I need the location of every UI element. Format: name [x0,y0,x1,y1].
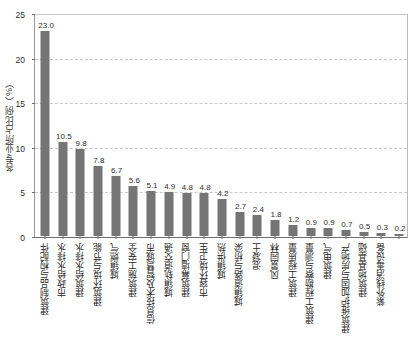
bar[interactable] [129,186,138,236]
bar-slot[interactable]: 0.7 [337,14,355,236]
bar[interactable] [147,191,156,236]
bar-value-label: 0.3 [377,224,388,232]
bar-slot[interactable]: 0.5 [355,14,373,236]
x-tick-mark [328,236,329,239]
x-tick-mark [363,236,364,239]
bar[interactable] [253,215,262,236]
x-axis-label-text: 建筑施工安全 [127,243,138,297]
x-tick-mark [168,236,169,239]
bar-value-label: 5.1 [146,182,157,190]
bar-slot[interactable]: 5.6 [125,14,143,236]
bar-value-label: 0.7 [341,221,352,229]
y-tick-label: 5 [5,189,25,198]
bar-value-label: 0.2 [394,225,405,233]
x-axis-label-text: 紫外线消毒设备 [375,243,386,306]
bar-slot[interactable]: 2.7 [231,14,249,236]
bar-slot[interactable]: 1.2 [284,14,302,236]
bar-value-label: 0.9 [324,219,335,227]
bar[interactable] [217,199,226,236]
bar[interactable] [40,31,49,236]
bar-slot[interactable]: 1.8 [266,14,284,236]
bar-value-label: 2.7 [235,203,246,211]
y-tick-label: 15 [5,100,25,109]
x-axis-label: 信息技术及智慧城市 [144,243,156,328]
y-tick-label: 25 [5,11,25,20]
bar-value-label: 5.6 [129,177,140,185]
x-tick-mark [115,236,116,239]
bar-value-label: 9.8 [76,140,87,148]
bar[interactable] [306,228,315,236]
x-axis-label: 建筑工程质量 [286,243,298,301]
bar-value-label: 6.7 [111,167,122,175]
x-axis-label: 城镇燃气 [109,243,121,283]
bar-slot[interactable]: 4.8 [178,14,196,236]
bar[interactable] [93,166,102,236]
bar-slot[interactable]: 4.9 [160,14,178,236]
bar-series: 23.010.59.87.86.75.65.14.94.84.84.22.72.… [36,14,406,236]
x-axis-label-text: 市容环境卫生 [198,243,209,297]
bar[interactable] [111,176,120,236]
x-axis-label: 城镇轨道交通 [162,243,174,301]
y-axis-title-text: 各专业所占比例（%） [4,78,15,172]
x-tick-mark [221,236,222,239]
bar-slot[interactable]: 0.9 [319,14,337,236]
bar-slot[interactable]: 0.2 [390,14,408,236]
bar-slot[interactable]: 7.8 [89,14,107,236]
bar-slot[interactable]: 23.0 [36,14,54,236]
bar-value-label: 10.5 [56,133,72,141]
bar-slot[interactable]: 9.8 [71,14,89,236]
x-axis-label-text: 混凝土 [251,243,262,270]
bar-slot[interactable]: 2.4 [249,14,267,236]
bar-slot[interactable]: 4.2 [213,14,231,236]
bar-slot[interactable]: 0.9 [302,14,320,236]
x-tick-mark [151,236,152,239]
x-axis-label: 建筑施工安全 [126,243,138,301]
bar-value-label: 0.5 [359,223,370,231]
bar-slot[interactable]: 6.7 [107,14,125,236]
x-axis-label-text: 建筑给水排水 [74,243,85,297]
x-tick-mark [345,236,346,239]
y-axis-title: 各专业所占比例（%） [2,0,16,250]
bar[interactable] [76,149,85,236]
bar[interactable] [58,142,67,236]
x-tick-mark [44,236,45,239]
x-axis-label-text: 信息技术及智慧城市 [145,243,156,324]
bar-slot[interactable]: 0.3 [373,14,391,236]
x-tick-mark [204,236,205,239]
bar[interactable] [182,193,191,236]
bar-slot[interactable]: 10.5 [54,14,72,236]
bar[interactable] [164,192,173,236]
x-axis-label-text: 市政给水排水 [56,243,67,297]
y-tick-label: 20 [5,55,25,64]
bar[interactable] [271,220,280,236]
bar[interactable] [288,225,297,236]
y-tick-mark [32,192,35,193]
bar[interactable] [324,228,333,236]
x-tick-mark [239,236,240,239]
bar-value-label: 4.9 [164,183,175,191]
x-axis-labels: 建筑制品与构配件市政给水排水建筑给水排水建筑环境与节能城镇燃气建筑施工安全信息技… [35,243,407,362]
x-axis-label-text: 建筑工程质量 [287,243,298,297]
x-axis-label-text: 城镇道路与桥梁 [233,243,244,306]
x-axis-label: 建筑环境与节能 [91,243,103,310]
x-tick-mark [97,236,98,239]
x-axis-label-text: 风景园林 [269,243,280,279]
x-tick-mark [80,236,81,239]
bar[interactable] [200,193,209,236]
bar[interactable] [235,212,244,236]
x-axis-label: 建筑电气 [321,243,333,283]
x-axis-label-text: 城镇燃气 [109,243,120,279]
bar-slot[interactable]: 5.1 [142,14,160,236]
x-axis-label: 建筑工程勘察与测量 [304,243,316,328]
x-tick-mark [62,236,63,239]
bar-value-label: 2.4 [253,206,264,214]
x-axis-label: 建筑维护加固与房地产 [339,243,351,337]
x-tick-mark [310,236,311,239]
plot-area: 0510152025 23.010.59.87.86.75.65.14.94.8… [34,14,408,238]
x-tick-mark [257,236,258,239]
bar-value-label: 4.8 [182,184,193,192]
bar-slot[interactable]: 4.8 [195,14,213,236]
x-axis-label-text: 建筑维护加固与房地产 [340,243,351,333]
x-axis-label-text: 城镇供热 [216,243,227,279]
x-axis-label: 混凝土 [250,243,262,274]
